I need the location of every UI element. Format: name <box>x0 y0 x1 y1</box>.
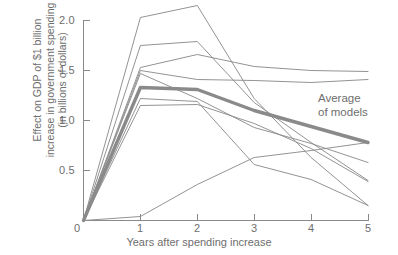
clipped-caption <box>0 249 398 255</box>
x-tick-label-1: 1 <box>137 222 143 234</box>
x-tick-label-2: 2 <box>194 222 200 234</box>
y-axis-label-line-1: Effect on GDP of $1 billion <box>31 0 44 180</box>
x-tick-label-4: 4 <box>308 222 314 234</box>
x-tick-label-5: 5 <box>365 222 371 234</box>
y-axis-label: Effect on GDP of $1 billion increase in … <box>31 0 71 180</box>
annotation-line-1: Average <box>318 92 368 106</box>
chart-figure: 2.0 1.5 1.0 0.5 0 1 2 3 4 5 Effect on GD… <box>0 0 398 255</box>
annotation-line-2: of models <box>318 106 368 120</box>
series-model-8 <box>84 143 369 221</box>
series-model-3 <box>84 55 369 221</box>
y-axis-label-line-2: increase in government spending <box>44 0 57 180</box>
x-tick-label-3: 3 <box>251 222 257 234</box>
x-axis-label: Years after spending increase <box>0 236 398 248</box>
y-axis-label-line-3: (in billions of dollars) <box>56 0 69 180</box>
average-of-models-annotation: Average of models <box>318 92 368 119</box>
y-tick-label-0: 0 <box>74 222 80 234</box>
